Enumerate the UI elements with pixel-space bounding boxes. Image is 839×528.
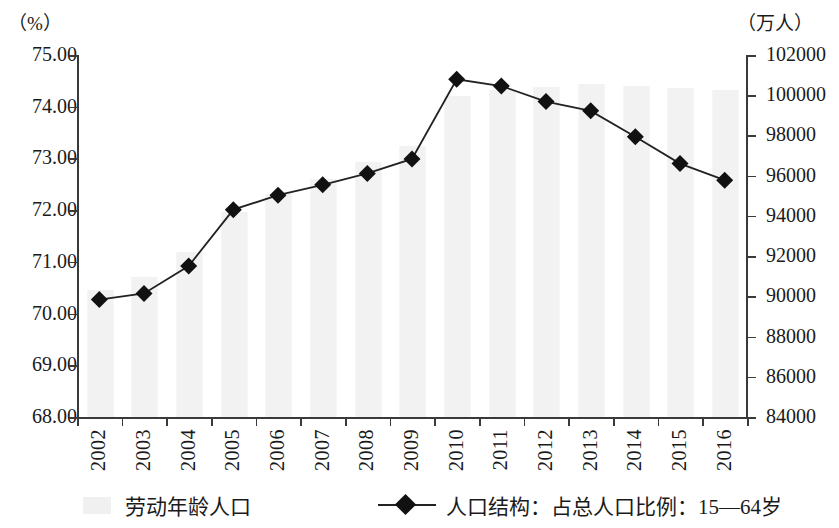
right-tick-mark (747, 216, 756, 218)
right-tick-label: 100000 (766, 84, 826, 104)
bar-swatch-icon (83, 497, 111, 514)
left-tick-label: 75.00 (32, 44, 77, 64)
left-tick-label: 70.00 (32, 303, 77, 323)
x-tick-label-2002: 2002 (88, 429, 108, 471)
right-axis-unit-label: （万人） (737, 8, 813, 35)
x-tick-label-2016: 2016 (714, 429, 734, 471)
x-tick-label-2005: 2005 (222, 429, 242, 471)
data-point-marker (270, 187, 287, 204)
x-tick-label-2014: 2014 (624, 429, 644, 471)
x-tick-label-2006: 2006 (267, 429, 287, 471)
x-tick-label-2012: 2012 (535, 429, 555, 471)
legend-item-bars: 劳动年龄人口 (83, 490, 251, 520)
right-tick-mark (747, 377, 756, 379)
data-point-marker (225, 201, 242, 218)
data-point-marker (716, 172, 733, 189)
right-tick-label: 86000 (766, 366, 816, 386)
data-point-marker (493, 78, 510, 95)
data-point-marker (136, 285, 153, 302)
x-tick-label-2007: 2007 (312, 429, 332, 471)
right-tick-label: 96000 (766, 165, 816, 185)
right-tick-mark (747, 296, 756, 298)
left-tick-label: 74.00 (32, 96, 77, 116)
left-tick-label: 69.00 (32, 354, 77, 374)
x-tick-label-2009: 2009 (401, 429, 421, 471)
plot-area (77, 55, 747, 417)
left-tick-label: 73.00 (32, 147, 77, 167)
data-point-marker (627, 128, 644, 145)
bottom-axis-line (77, 417, 747, 419)
x-tick-label-2015: 2015 (669, 429, 689, 471)
left-tick-label: 72.00 (32, 199, 77, 219)
data-point-marker (359, 165, 376, 182)
right-tick-mark (747, 176, 756, 178)
right-tick-label: 90000 (766, 285, 816, 305)
left-tick-label: 71.00 (32, 251, 77, 271)
right-tick-mark (747, 95, 756, 97)
data-point-marker (538, 93, 555, 110)
x-tick-label-2008: 2008 (356, 429, 376, 471)
population-structure-chart: （%） （万人） 75.0074.0073.0072.0071.0070.006… (0, 0, 839, 528)
right-tick-label: 92000 (766, 245, 816, 265)
left-tick-label: 68.00 (32, 406, 77, 426)
data-point-marker (180, 257, 197, 274)
right-tick-mark (747, 337, 756, 339)
right-tick-label: 84000 (766, 406, 816, 426)
right-tick-label: 88000 (766, 326, 816, 346)
data-point-marker (582, 102, 599, 119)
data-point-marker (448, 71, 465, 88)
legend-item-line: 人口结构：占总人口比例：15—64岁 (378, 490, 782, 520)
data-point-marker (91, 291, 108, 308)
x-tick-label-2004: 2004 (178, 429, 198, 471)
right-tick-mark (747, 135, 756, 137)
right-tick-mark (747, 55, 756, 57)
x-tick-mark (747, 417, 749, 426)
legend-line-label: 人口结构：占总人口比例：15—64岁 (446, 490, 782, 520)
right-tick-mark (747, 256, 756, 258)
line-marker-swatch-icon (378, 495, 436, 515)
line-markers (91, 71, 733, 308)
right-tick-label: 102000 (766, 44, 826, 64)
x-tick-label-2003: 2003 (133, 429, 153, 471)
x-tick-label-2013: 2013 (580, 429, 600, 471)
left-axis-unit-label: （%） (8, 8, 62, 35)
data-point-marker (404, 150, 421, 167)
x-tick-label-2010: 2010 (446, 429, 466, 471)
x-tick-label-2011: 2011 (490, 429, 510, 470)
right-tick-label: 94000 (766, 205, 816, 225)
right-tick-label: 98000 (766, 124, 816, 144)
chart-legend: 劳动年龄人口 人口结构：占总人口比例：15—64岁 (0, 488, 839, 528)
data-point-marker (314, 176, 331, 193)
line-series-layer (77, 55, 747, 417)
data-point-marker (672, 155, 689, 172)
legend-bars-label: 劳动年龄人口 (125, 490, 251, 520)
